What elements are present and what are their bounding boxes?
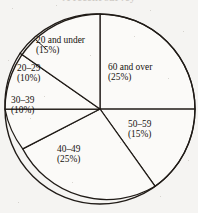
slice-label-60-and-over: 60 and over (25%) [108,63,152,83]
slice-label-percent: (25%) [57,155,80,165]
slice-label-40-49: 40–49 (25%) [57,145,80,165]
slice-label-20-and-under: 20 and under (15%) [36,36,85,56]
slice-label-20-29: 20–29 (10%) [17,64,40,84]
slice-label-percent: (10%) [11,106,34,116]
slice-label-50-59: 50–59 (15%) [128,120,151,140]
slice-label-percent: (15%) [36,46,85,56]
slice-label-percent: (10%) [17,74,40,84]
slice-label-percent: (15%) [128,130,151,140]
slice-label-percent: (25%) [108,73,152,83]
pie-chart-figure: A recent survey 60 and over (25%) [0,0,198,213]
slice-label-30-39: 30–39 (10%) [11,96,34,116]
